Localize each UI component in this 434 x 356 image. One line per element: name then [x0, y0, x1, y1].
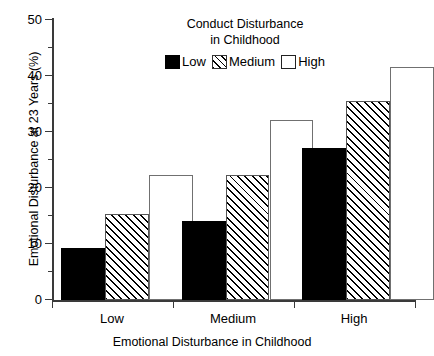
- y-tick-label-10: 10: [2, 237, 42, 250]
- y-tick-label-20: 20: [2, 181, 42, 194]
- legend-swatch-open-icon: [281, 55, 296, 69]
- x-category-low: Low: [57, 311, 167, 326]
- bar-high-medium: [346, 101, 390, 300]
- legend-entry-high: High: [281, 54, 325, 69]
- x-axis-title: Emotional Disturbance in Childhood: [0, 335, 424, 349]
- legend-entry-medium: Medium: [212, 54, 275, 69]
- y-axis-title: Emotional Disturbance at 23 Years (%): [27, 14, 41, 304]
- bar-high-low: [302, 148, 346, 300]
- legend-label-high: High: [298, 54, 325, 69]
- y-tick-label-0: 0: [2, 293, 42, 306]
- x-axis-line: [52, 300, 416, 302]
- bar-low-medium: [105, 214, 149, 300]
- y-tick-label-30: 30: [2, 125, 42, 138]
- bar-medium-low: [182, 221, 226, 300]
- bar-low-low: [61, 248, 105, 300]
- legend-title-line-1: Conduct Disturbance: [130, 16, 360, 32]
- legend: Conduct Disturbance in Childhood Low Med…: [130, 16, 360, 69]
- legend-entries: Low Medium High: [130, 54, 360, 69]
- legend-swatch-solid-icon: [165, 55, 180, 69]
- bar-medium-medium: [226, 175, 270, 300]
- x-tick-1: [173, 300, 174, 308]
- x-tick-2: [294, 300, 295, 308]
- bar-high-high: [390, 67, 434, 300]
- legend-swatch-hatch-icon: [212, 55, 227, 69]
- legend-entry-low: Low: [165, 54, 206, 69]
- y-tick-label-50: 50: [2, 13, 42, 26]
- y-axis-line: [52, 18, 54, 301]
- y-tick-label-40: 40: [2, 69, 42, 82]
- x-category-high: High: [299, 311, 409, 326]
- x-tick-start: [52, 300, 53, 308]
- x-category-medium: Medium: [178, 311, 288, 326]
- x-tick-end: [415, 300, 416, 308]
- legend-title-line-2: in Childhood: [130, 32, 360, 48]
- legend-label-medium: Medium: [229, 54, 275, 69]
- legend-label-low: Low: [182, 54, 206, 69]
